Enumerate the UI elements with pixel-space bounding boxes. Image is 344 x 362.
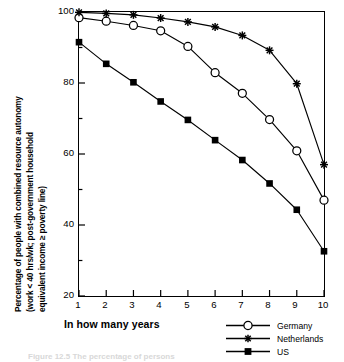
- figure-caption: Figure 12.5 The percentage of persons: [28, 352, 328, 361]
- y-axis-title-line-3: equivalent income ≥ poverty line): [37, 186, 47, 312]
- series-germany: [75, 14, 328, 204]
- y-axis-title-line-1: Percentage of people with combined resou…: [13, 96, 23, 312]
- data-point-germany-7: [238, 89, 246, 97]
- data-point-us-8: [266, 180, 273, 187]
- x-tick-label-7: 7: [231, 300, 251, 310]
- data-point-germany-5: [184, 42, 192, 50]
- data-series-layer: [75, 8, 328, 254]
- y-tick-label-80: 80: [48, 77, 74, 87]
- data-point-us-2: [103, 61, 110, 68]
- y-tick-label-40: 40: [48, 219, 74, 229]
- data-point-netherlands-10: [320, 161, 328, 169]
- legend-label-germany: Germany: [277, 321, 312, 331]
- data-point-netherlands-4: [157, 14, 165, 22]
- data-point-germany-3: [129, 21, 137, 29]
- legend-marker-open-circle: [225, 319, 271, 332]
- series-netherlands: [75, 8, 328, 168]
- data-point-netherlands-9: [293, 80, 301, 88]
- plot-area: [78, 11, 325, 297]
- x-tick-label-5: 5: [177, 300, 197, 310]
- data-point-germany-4: [157, 27, 165, 35]
- data-point-us-10: [321, 248, 328, 255]
- x-tick-label-2: 2: [95, 300, 115, 310]
- x-tick-label-6: 6: [204, 300, 224, 310]
- data-point-netherlands-6: [211, 23, 219, 31]
- x-tick-label-10: 10: [313, 300, 333, 310]
- data-point-netherlands-5: [184, 18, 192, 26]
- legend-item-germany[interactable]: Germany: [225, 319, 344, 332]
- x-tick-label-3: 3: [122, 300, 142, 310]
- data-point-us-3: [130, 79, 137, 86]
- x-tick-label-4: 4: [149, 300, 169, 310]
- figure: Percentage of people with combined resou…: [0, 0, 344, 362]
- x-tick-label-9: 9: [285, 300, 305, 310]
- data-point-us-6: [212, 137, 219, 144]
- legend-marker-star: [225, 332, 271, 345]
- data-point-us-1: [76, 39, 83, 46]
- data-point-germany-9: [293, 147, 301, 155]
- data-point-netherlands-8: [266, 46, 274, 54]
- data-point-netherlands-2: [102, 9, 110, 17]
- y-axis-title: Percentage of people with combined resou…: [0, 0, 58, 320]
- data-point-netherlands-1: [75, 8, 83, 16]
- data-point-us-4: [157, 98, 164, 105]
- data-point-netherlands-3: [129, 11, 137, 19]
- x-tick-label-8: 8: [258, 300, 278, 310]
- data-point-us-9: [293, 206, 300, 213]
- y-tick-label-20: 20: [48, 290, 74, 300]
- data-point-germany-8: [266, 116, 274, 124]
- plot-canvas: [79, 12, 324, 296]
- legend-item-netherlands[interactable]: Netherlands: [225, 332, 344, 345]
- data-point-germany-10: [320, 196, 328, 204]
- y-tick-label-60: 60: [48, 148, 74, 158]
- data-point-us-5: [185, 117, 192, 124]
- x-tick-label-1: 1: [68, 300, 88, 310]
- data-point-germany-2: [102, 17, 110, 25]
- data-point-germany-6: [211, 69, 219, 77]
- series-us: [76, 39, 328, 255]
- data-point-netherlands-7: [238, 31, 246, 39]
- y-tick-label-100: 100: [48, 6, 74, 16]
- legend-label-netherlands: Netherlands: [277, 334, 323, 344]
- data-point-us-7: [239, 157, 246, 164]
- y-axis-title-line-2: (work < 40 hrs/wk; post-government house…: [25, 132, 35, 312]
- x-axis-title: In how many years: [64, 318, 160, 330]
- axis-ticks: [79, 12, 324, 296]
